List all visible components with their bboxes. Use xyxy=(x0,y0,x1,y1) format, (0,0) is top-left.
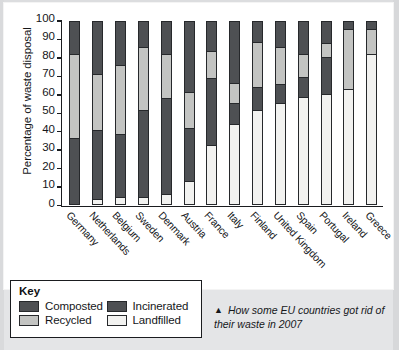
bar-segment-composted xyxy=(299,78,308,99)
bar-segment-composted xyxy=(185,129,194,182)
y-axis-tick-mark xyxy=(57,57,62,59)
y-axis-tick-mark xyxy=(57,113,62,115)
bar-slot xyxy=(178,21,201,205)
bar-segment-recycled xyxy=(230,84,239,105)
bar-slot xyxy=(223,21,246,205)
stacked-bar[interactable] xyxy=(138,21,149,205)
x-label-slot: Greece xyxy=(360,207,383,269)
bar-segment-incinerated xyxy=(207,22,216,52)
bar-segment-composted xyxy=(70,139,79,204)
bar-segment-incinerated xyxy=(70,22,79,55)
bar-group xyxy=(64,21,384,205)
stacked-bar[interactable] xyxy=(161,21,172,205)
stacked-bar[interactable] xyxy=(206,21,217,205)
bar-segment-landfilled xyxy=(207,146,216,203)
bar-segment-landfilled xyxy=(139,198,148,203)
x-label-slot: France xyxy=(199,207,222,269)
bar-slot xyxy=(360,21,383,205)
bar-segment-landfilled xyxy=(367,55,376,204)
page-edge-right xyxy=(393,0,399,350)
x-axis-label: Greece xyxy=(363,209,394,241)
y-axis-tick-label: 0 xyxy=(49,198,55,210)
bar-segment-recycled xyxy=(322,44,331,58)
x-label-slot: United Kingdom xyxy=(268,207,291,269)
bar-segment-composted xyxy=(93,131,102,200)
bar-segment-composted xyxy=(116,135,125,198)
stacked-bar[interactable] xyxy=(184,21,195,205)
bar-segment-recycled xyxy=(70,55,79,139)
stacked-bar[interactable] xyxy=(343,21,354,205)
bar-segment-landfilled xyxy=(344,90,353,203)
bar-segment-incinerated xyxy=(116,22,125,66)
y-axis-tick-label: 40 xyxy=(42,124,55,136)
y-axis-tick-label: 30 xyxy=(42,142,55,154)
bar-segment-incinerated xyxy=(344,22,353,30)
x-label-slot: Portugal xyxy=(314,207,337,269)
stacked-bar[interactable] xyxy=(321,21,332,205)
x-axis-labels: GermanyNetherlandsBelgiumSwedenDenmarkAu… xyxy=(61,207,383,269)
bar-segment-recycled xyxy=(139,48,148,111)
legend-row: RecycledLandfilled xyxy=(19,314,194,326)
bar-segment-incinerated xyxy=(139,22,148,48)
y-axis-tick-mark xyxy=(57,149,62,151)
stacked-bar[interactable] xyxy=(275,21,286,205)
y-axis-tick-label: 80 xyxy=(42,50,55,62)
bar-segment-recycled xyxy=(253,43,262,89)
caption-text: How some EU countries got rid of their w… xyxy=(214,304,384,330)
plot-area: 1009080706050403020100 xyxy=(61,21,383,207)
bar-segment-recycled xyxy=(276,48,285,85)
legend-label: Incinerated xyxy=(133,300,189,312)
bar-segment-recycled xyxy=(116,66,125,135)
bar-segment-composted xyxy=(230,104,239,125)
stacked-bar-chart: Percentage of waste disposal 10090807060… xyxy=(4,3,393,289)
bar-segment-recycled xyxy=(207,52,216,80)
bar-slot xyxy=(315,21,338,205)
bar-slot xyxy=(292,21,315,205)
stacked-bar[interactable] xyxy=(298,21,309,205)
bar-slot xyxy=(246,21,269,205)
stacked-bar[interactable] xyxy=(229,21,240,205)
y-axis-tick-label: 20 xyxy=(42,161,55,173)
x-axis-label: Italy xyxy=(225,209,246,231)
y-axis-tick-mark xyxy=(57,39,62,41)
legend-item-recycled: Recycled xyxy=(19,314,107,326)
x-label-slot: Netherlands xyxy=(84,207,107,269)
bar-segment-composted xyxy=(139,111,148,198)
y-axis-tick-mark xyxy=(57,131,62,133)
bar-segment-composted xyxy=(253,88,262,110)
caption-triangle-icon: ▲ xyxy=(214,304,223,316)
bar-segment-recycled xyxy=(299,55,308,77)
bar-segment-landfilled xyxy=(276,104,285,204)
y-axis-tick-mark xyxy=(57,168,62,170)
legend-entries: CompostedIncineratedRecycledLandfilled xyxy=(19,300,194,326)
bar-segment-incinerated xyxy=(162,22,171,55)
legend-label: Landfilled xyxy=(133,314,181,326)
bar-segment-composted xyxy=(322,58,331,95)
y-axis-tick-label: 90 xyxy=(42,31,55,43)
x-label-slot: Belgium xyxy=(107,207,130,269)
x-label-slot: Sweden xyxy=(130,207,153,269)
bar-segment-landfilled xyxy=(162,195,171,203)
bar-segment-incinerated xyxy=(367,22,376,30)
stacked-bar[interactable] xyxy=(92,21,103,205)
x-label-slot: Denmark xyxy=(153,207,176,269)
bar-slot xyxy=(155,21,178,205)
stacked-bar[interactable] xyxy=(69,21,80,205)
bar-segment-recycled xyxy=(367,30,376,54)
stacked-bar[interactable] xyxy=(115,21,126,205)
legend-swatch-composted xyxy=(19,301,39,312)
legend-title: Key xyxy=(19,285,194,297)
chart-legend: Key CompostedIncineratedRecycledLandfill… xyxy=(10,280,202,338)
y-axis-tick-mark xyxy=(57,20,62,22)
legend-label: Recycled xyxy=(45,314,92,326)
stacked-bar[interactable] xyxy=(252,21,263,205)
y-axis-tick-mark xyxy=(57,76,62,78)
x-label-slot: Austria xyxy=(176,207,199,269)
bar-segment-composted xyxy=(207,79,216,146)
y-axis-title: Percentage of waste disposal xyxy=(21,16,33,186)
bar-segment-landfilled xyxy=(253,111,262,204)
y-axis-tick-label: 100 xyxy=(36,13,55,25)
x-label-slot: Spain xyxy=(291,207,314,269)
stacked-bar[interactable] xyxy=(366,21,377,205)
legend-swatch-landfilled xyxy=(107,315,127,326)
